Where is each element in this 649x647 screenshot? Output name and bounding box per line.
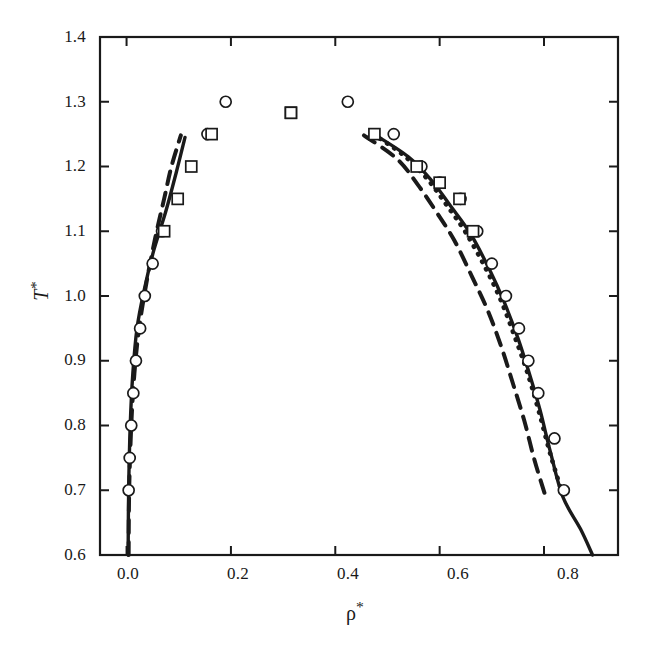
tick-marks [100, 37, 618, 555]
data-marker-circle [549, 433, 560, 444]
x-tick-label-0.6: 0.6 [428, 564, 488, 584]
data-marker-circle [388, 129, 399, 140]
y-tick-label-0.6: 0.6 [32, 545, 86, 565]
plot-canvas [0, 0, 649, 647]
data-marker-circle [135, 323, 146, 334]
data-marker-circle [139, 291, 150, 302]
x-tick-label-0.0: 0.0 [98, 564, 158, 584]
data-marker-square [285, 107, 296, 118]
x-axis-title-star: * [356, 598, 364, 615]
data-marker-circle [126, 420, 137, 431]
data-marker-square [206, 129, 217, 140]
y-axis-title: T* [27, 271, 54, 311]
data-layer [123, 96, 592, 555]
data-marker-circle [147, 258, 158, 269]
dashed-curve [364, 135, 546, 498]
data-marker-circle [128, 388, 139, 399]
y-axis-title-symbol: T [30, 290, 52, 301]
data-marker-square [411, 161, 422, 172]
y-tick-label-1.4: 1.4 [32, 27, 86, 47]
y-tick-label-1.1: 1.1 [32, 221, 86, 241]
y-tick-label-1.2: 1.2 [32, 156, 86, 176]
y-axis-title-star: * [27, 282, 44, 290]
data-marker-circle [130, 355, 141, 366]
data-marker-circle [123, 485, 134, 496]
data-marker-square [369, 129, 380, 140]
dotted-curve [373, 134, 564, 498]
data-marker-circle [523, 355, 534, 366]
x-tick-label-0.2: 0.2 [208, 564, 268, 584]
data-marker-circle [558, 485, 569, 496]
data-marker-square [454, 193, 465, 204]
data-marker-square [434, 177, 445, 188]
coexistence-curve-figure: 1.4 1.3 1.2 1.1 1.0 0.9 0.8 0.7 0.6 0.0 … [0, 0, 649, 647]
data-marker-square [159, 226, 170, 237]
data-marker-circle [220, 96, 231, 107]
data-marker-square [172, 193, 183, 204]
data-marker-circle [533, 388, 544, 399]
x-tick-label-0.4: 0.4 [318, 564, 378, 584]
data-marker-circle [486, 258, 497, 269]
data-marker-circle [342, 96, 353, 107]
data-marker-square [186, 161, 197, 172]
y-tick-label-0.8: 0.8 [32, 415, 86, 435]
y-tick-label-0.9: 0.9 [32, 350, 86, 370]
data-marker-circle [500, 291, 511, 302]
data-marker-circle [124, 452, 135, 463]
x-tick-label-0.8: 0.8 [538, 564, 598, 584]
y-tick-label-0.7: 0.7 [32, 480, 86, 500]
x-axis-title: ρ* [325, 598, 385, 625]
data-marker-circle [513, 323, 524, 334]
data-marker-square [468, 226, 479, 237]
axis-frame [100, 37, 618, 555]
x-axis-title-symbol: ρ [346, 602, 356, 624]
y-tick-label-1.3: 1.3 [32, 92, 86, 112]
